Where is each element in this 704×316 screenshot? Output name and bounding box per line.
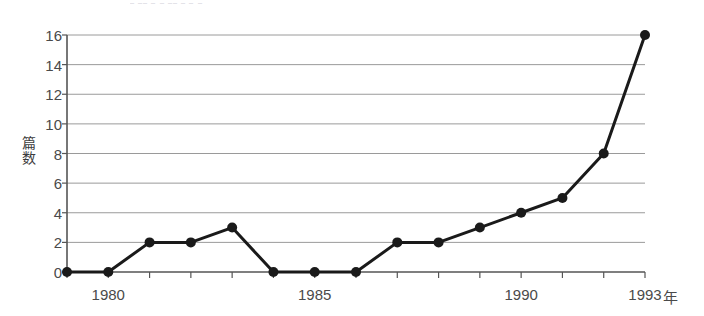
- y-tick-label-2: 2: [38, 234, 62, 251]
- x-tick-label-1990: 1990: [504, 286, 537, 303]
- y-tick-label-8: 8: [38, 145, 62, 162]
- data-point-1988: [434, 237, 444, 247]
- x-tick-label-1980: 1980: [92, 286, 125, 303]
- data-point-1991: [557, 193, 567, 203]
- data-point-1986: [351, 267, 361, 277]
- y-tick-label-6: 6: [38, 175, 62, 192]
- y-tick-label-4: 4: [38, 204, 62, 221]
- data-point-1992: [599, 149, 609, 159]
- data-point-1990: [516, 208, 526, 218]
- y-tick-label-16: 16: [38, 27, 62, 44]
- data-point-1985: [310, 267, 320, 277]
- x-tick-label-1985: 1985: [298, 286, 331, 303]
- y-tick-label-12: 12: [38, 86, 62, 103]
- y-tick-label-10: 10: [38, 115, 62, 132]
- data-point-1981: [145, 237, 155, 247]
- data-point-1989: [475, 223, 485, 233]
- data-point-1993: [640, 30, 650, 40]
- y-tick-label-0: 0: [38, 264, 62, 281]
- data-point-1982: [186, 237, 196, 247]
- gridlines-group: [67, 35, 645, 242]
- x-axis-unit-label: 年: [663, 286, 678, 307]
- data-point-1987: [392, 237, 402, 247]
- data-point-1983: [227, 223, 237, 233]
- chart-figure: ⎯ ⎯⎯ ⎯ ⎯ ⎯⎯ ⎯ ⎯ ⎯ 篇 数 0246810121416 1980…: [0, 0, 704, 316]
- y-tick-label-14: 14: [38, 56, 62, 73]
- data-point-1980: [103, 267, 113, 277]
- data-point-1984: [268, 267, 278, 277]
- line-chart-canvas: [0, 0, 704, 316]
- x-tick-label-1993: 1993: [628, 286, 661, 303]
- data-point-1979: [62, 267, 72, 277]
